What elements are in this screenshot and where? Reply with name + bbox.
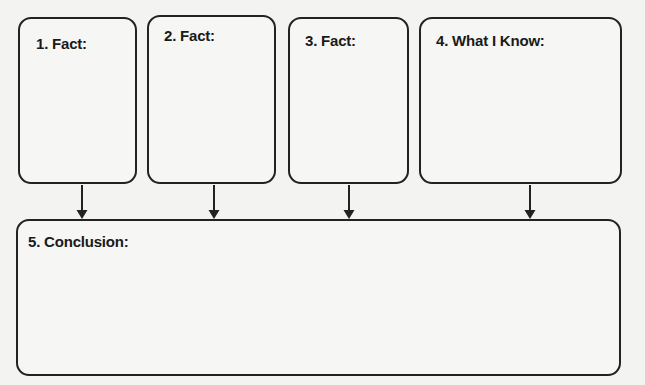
fact-3-label: 3. Fact: — [305, 32, 356, 49]
fact-3-box[interactable]: 3. Fact: — [288, 17, 409, 184]
arrow-down-icon — [524, 185, 536, 220]
fact-2-box[interactable]: 2. Fact: — [147, 15, 276, 184]
fact-1-label: 1. Fact: — [36, 35, 87, 52]
conclusion-label: 5. Conclusion: — [28, 233, 129, 250]
arrow-down-icon — [343, 185, 355, 220]
conclusion-box[interactable]: 5. Conclusion: — [16, 219, 621, 376]
what-i-know-label: 4. What I Know: — [436, 32, 545, 49]
what-i-know-box[interactable]: 4. What I Know: — [419, 17, 622, 184]
arrow-down-icon — [208, 185, 220, 220]
fact-1-box[interactable]: 1. Fact: — [18, 17, 137, 184]
fact-2-label: 2. Fact: — [164, 27, 215, 44]
arrow-down-icon — [76, 185, 88, 220]
